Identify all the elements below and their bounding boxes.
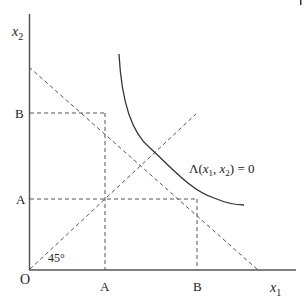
y-axis-label: x2 bbox=[11, 24, 23, 42]
origin-label: O bbox=[20, 272, 30, 287]
x-tick-b: B bbox=[193, 279, 202, 294]
y-tick-b: B bbox=[15, 106, 24, 121]
corner-mark bbox=[300, 0, 302, 5]
angle-label: 45° bbox=[48, 251, 65, 265]
45-degree-line bbox=[30, 114, 196, 269]
curve-label: Λ(x1, x2) = 0 bbox=[189, 161, 255, 178]
diagram-canvas: x2 x1 O B A A B 45° Λ(x1, x2) = 0 bbox=[0, 0, 304, 300]
y-tick-a: A bbox=[16, 192, 26, 207]
x-axis-label: x1 bbox=[269, 280, 281, 298]
x-tick-a: A bbox=[100, 279, 110, 294]
lambda-curve bbox=[119, 54, 244, 205]
